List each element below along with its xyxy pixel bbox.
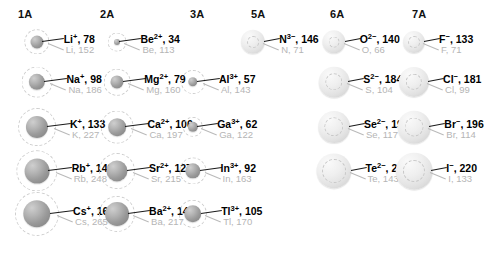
column-header-6a: 6A bbox=[330, 8, 344, 20]
ion-radius-sphere-rb bbox=[25, 159, 50, 184]
atom-label-ca: Ca, 197 bbox=[149, 129, 182, 140]
atom-label-li: Li, 152 bbox=[66, 44, 95, 55]
element-cell-rb bbox=[14, 148, 59, 193]
atom-label-f: F, 71 bbox=[441, 44, 462, 55]
element-cell-in bbox=[177, 155, 208, 186]
column-header-1a: 1A bbox=[18, 8, 32, 20]
element-cell-i bbox=[394, 151, 435, 192]
atom-label-o: O, 66 bbox=[362, 44, 385, 55]
atom-label-i: I, 133 bbox=[448, 173, 472, 184]
element-cell-se bbox=[316, 109, 352, 145]
atom-radius-circle-te bbox=[322, 159, 346, 183]
ion-radius-sphere-ba bbox=[105, 202, 129, 226]
atom-label-be: Be, 113 bbox=[142, 44, 174, 55]
atom-radius-circle-o bbox=[328, 36, 339, 47]
atom-label-cl: Cl, 99 bbox=[445, 84, 470, 95]
atom-label-br: Br, 114 bbox=[446, 129, 475, 140]
atom-label-n: N, 71 bbox=[281, 44, 304, 55]
atom-label-in: In, 163 bbox=[223, 173, 252, 184]
atom-radius-circle-f bbox=[408, 36, 420, 48]
atom-label-se: Se, 117 bbox=[366, 129, 398, 140]
atom-radius-circle-br bbox=[405, 118, 424, 137]
element-cell-br bbox=[396, 109, 433, 146]
element-cell-s bbox=[317, 65, 352, 100]
atom-label-mg: Mg, 160 bbox=[146, 84, 180, 95]
ion-radius-sphere-ca bbox=[108, 118, 126, 136]
element-cell-ga bbox=[181, 115, 205, 139]
ionic-radii-figure: 1A2A3A5A6A7ALi+, 78Li, 152Na+, 98Na, 186… bbox=[0, 0, 484, 260]
element-cell-cs bbox=[13, 190, 61, 238]
atom-label-s: S, 104 bbox=[365, 84, 392, 95]
element-cell-k bbox=[16, 106, 58, 148]
column-header-7a: 7A bbox=[412, 8, 426, 20]
element-cell-te bbox=[314, 151, 353, 190]
element-cell-cl bbox=[397, 65, 431, 99]
atom-radius-circle-n bbox=[247, 36, 259, 48]
atom-label-tl: Tl, 170 bbox=[223, 216, 252, 227]
column-header-5a: 5A bbox=[251, 8, 265, 20]
element-cell-be bbox=[106, 31, 129, 54]
atom-label-al: Al, 143 bbox=[221, 84, 251, 95]
atom-label-k: K, 227 bbox=[72, 129, 99, 140]
element-cell-sr bbox=[97, 151, 137, 191]
atom-label-ga: Ga, 122 bbox=[219, 129, 253, 140]
element-cell-ba bbox=[97, 194, 137, 234]
element-cell-ca bbox=[99, 109, 136, 146]
column-header-3a: 3A bbox=[190, 8, 204, 20]
column-header-2a: 2A bbox=[100, 8, 114, 20]
atom-label-na: Na, 186 bbox=[68, 84, 101, 95]
